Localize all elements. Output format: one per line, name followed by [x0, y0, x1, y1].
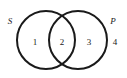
region-label-3: 3	[87, 38, 92, 47]
region-label-2: 2	[60, 38, 65, 47]
region-label-4: 4	[113, 38, 118, 47]
set-label-p: P	[110, 17, 116, 26]
set-label-s: S	[8, 17, 13, 26]
venn-diagram-figure: S P 1 2 3 4	[0, 0, 127, 78]
region-label-1: 1	[33, 38, 38, 47]
